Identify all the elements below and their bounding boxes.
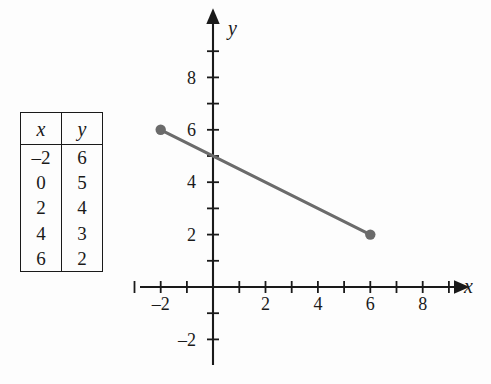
cell-x: 0 xyxy=(21,170,62,195)
value-table-head: x y xyxy=(21,113,102,145)
cell-x: 6 xyxy=(21,246,62,271)
x-tick-label: –2 xyxy=(151,294,170,314)
x-tick-label: 4 xyxy=(313,294,322,314)
data-point-marker-right xyxy=(365,229,375,239)
y-tick-label: 4 xyxy=(187,172,196,192)
column-header-y: y xyxy=(62,113,103,145)
y-tick-label: 2 xyxy=(187,225,196,245)
graph-svg: –2 2 4 6 8 8 6 4 2 –2 x y xyxy=(120,0,491,384)
table-header-row: x y xyxy=(21,113,102,145)
table-row: 4 3 xyxy=(21,221,102,246)
table-row: 0 5 xyxy=(21,170,102,195)
table-row: –2 6 xyxy=(21,145,102,171)
cell-x: 2 xyxy=(21,195,62,220)
value-table: x y –2 6 0 5 2 4 4 3 xyxy=(20,112,103,272)
cell-x: –2 xyxy=(21,145,62,171)
x-tick-label: 6 xyxy=(366,294,375,314)
table-row: 6 2 xyxy=(21,246,102,271)
cell-y: 4 xyxy=(62,195,103,220)
y-tick-label: 8 xyxy=(187,68,196,88)
value-table-body: –2 6 0 5 2 4 4 3 6 2 xyxy=(21,145,102,272)
value-table-grid: x y –2 6 0 5 2 4 4 3 xyxy=(21,113,102,271)
figure-root: x y –2 6 0 5 2 4 4 3 xyxy=(0,0,491,384)
cell-x: 4 xyxy=(21,221,62,246)
x-axis-label: x xyxy=(463,275,473,297)
table-row: 2 4 xyxy=(21,195,102,220)
cell-y: 2 xyxy=(62,246,103,271)
column-header-x: x xyxy=(21,113,62,145)
y-axis-label: y xyxy=(226,17,237,40)
data-point-marker-left xyxy=(156,125,166,135)
cell-y: 6 xyxy=(62,145,103,171)
cell-y: 3 xyxy=(62,221,103,246)
y-tick-label: 6 xyxy=(187,120,196,140)
x-tick-label: 2 xyxy=(261,294,270,314)
cell-y: 5 xyxy=(62,170,103,195)
y-tick-label: –2 xyxy=(177,330,196,350)
coordinate-plane: –2 2 4 6 8 8 6 4 2 –2 x y xyxy=(120,0,491,384)
x-tick-label: 8 xyxy=(418,294,427,314)
